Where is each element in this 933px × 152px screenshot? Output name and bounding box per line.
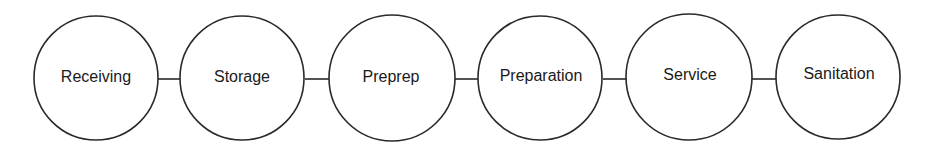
node-label: Sanitation <box>803 65 874 82</box>
node-label: Storage <box>214 68 270 85</box>
node-preprep: Preprep <box>329 15 455 141</box>
node-preparation: Preparation <box>478 16 602 140</box>
node-service: Service <box>626 14 752 140</box>
flow-diagram: Receiving Storage Preprep Preparation Se… <box>0 0 933 152</box>
node-sanitation: Sanitation <box>776 15 900 139</box>
node-label: Service <box>663 66 716 83</box>
node-receiving: Receiving <box>34 16 158 140</box>
node-storage: Storage <box>180 16 304 140</box>
node-label: Receiving <box>61 68 131 85</box>
node-label: Preprep <box>363 68 420 85</box>
node-label: Preparation <box>500 67 583 84</box>
